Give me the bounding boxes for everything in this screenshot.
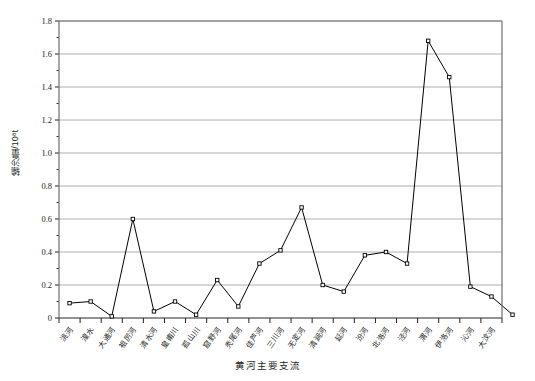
x-tick-group <box>59 318 502 323</box>
x-tick-label: 延河 <box>332 324 349 343</box>
y-tick-label: 1.8 <box>41 16 52 26</box>
data-marker-group <box>68 39 514 318</box>
x-tick-label: 泾河 <box>396 325 413 343</box>
y-tick-label: 1.0 <box>41 148 52 158</box>
x-tick-label: 沁河 <box>459 324 476 343</box>
x-tick-label: 北洛河 <box>370 324 392 349</box>
x-tick-label: 皇甫川 <box>159 324 181 349</box>
x-tick-label: 洮河 <box>58 324 75 343</box>
data-point-marker <box>342 290 345 293</box>
data-point-marker <box>448 75 451 78</box>
data-point-marker <box>216 278 219 281</box>
x-tick-label: 窟野河 <box>201 324 223 349</box>
x-tick-label: 秃尾河 <box>222 324 244 349</box>
data-point-marker <box>469 285 472 288</box>
x-tick-label: 祖厉河 <box>117 324 139 349</box>
data-point-marker <box>152 310 155 313</box>
data-line <box>70 41 513 317</box>
data-point-marker <box>321 283 324 286</box>
data-point-marker <box>237 305 240 308</box>
data-point-marker <box>490 295 493 298</box>
x-tick-label: 渭河 <box>416 324 433 343</box>
x-tick-label: 汾河 <box>354 325 371 343</box>
x-tick-label: 三川河 <box>265 325 286 350</box>
x-tick-label: 佳芦河 <box>243 324 265 349</box>
y-tick-label-group: 00.20.40.60.81.01.21.41.61.8 <box>41 16 52 323</box>
x-tick-label: 孤山川 <box>180 324 202 349</box>
x-tick-label: 湟水 <box>79 324 96 343</box>
axis-frame <box>59 21 502 318</box>
data-point-marker <box>300 206 303 209</box>
data-point-marker <box>511 313 514 316</box>
data-point-marker <box>68 301 71 304</box>
x-tick-label-group: 洮河湟水大通河祖厉河清水河皇甫川孤山川窟野河秃尾河佳芦河三川河无定河清涧河延河汾… <box>58 324 497 349</box>
gridlines-group <box>59 21 502 318</box>
x-tick-label: 大通河 <box>95 324 117 349</box>
y-tick-label: 1.4 <box>41 82 52 92</box>
data-point-marker <box>131 217 134 220</box>
data-point-marker <box>173 300 176 303</box>
y-tick-label: 0.4 <box>41 247 52 257</box>
x-tick-label: 清水河 <box>138 324 160 349</box>
data-point-marker <box>279 249 282 252</box>
y-axis-title: 输沙量/10⁸t <box>10 130 26 176</box>
data-point-marker <box>89 300 92 303</box>
y-tick-label: 0.6 <box>41 214 52 224</box>
data-point-marker <box>110 315 113 318</box>
sediment-discharge-line-chart: 输沙量/10⁸t 00.20.40.60.81.01.21.41.61.8 洮河… <box>0 0 535 381</box>
data-point-marker <box>363 254 366 257</box>
y-tick-label: 1.6 <box>41 49 52 59</box>
x-tick-label: 无定河 <box>285 324 307 349</box>
x-tick-label: 伊洛河 <box>433 324 455 349</box>
x-tick-label: 大汶河 <box>475 324 497 349</box>
data-point-marker <box>194 313 197 316</box>
chart-canvas: 00.20.40.60.81.01.21.41.61.8 洮河湟水大通河祖厉河清… <box>0 0 535 381</box>
data-point-marker <box>258 262 261 265</box>
data-point-marker <box>405 262 408 265</box>
data-line-group <box>70 41 513 317</box>
x-axis-title: 黄河主要支流 <box>0 358 535 372</box>
y-tick-label: 0 <box>48 313 52 323</box>
y-tick-label: 0.2 <box>41 280 52 290</box>
data-point-marker <box>384 250 387 253</box>
x-tick-label: 清涧河 <box>306 324 328 349</box>
data-point-marker <box>426 39 429 42</box>
y-tick-label: 0.8 <box>41 181 52 191</box>
y-tick-label: 1.2 <box>41 115 52 125</box>
